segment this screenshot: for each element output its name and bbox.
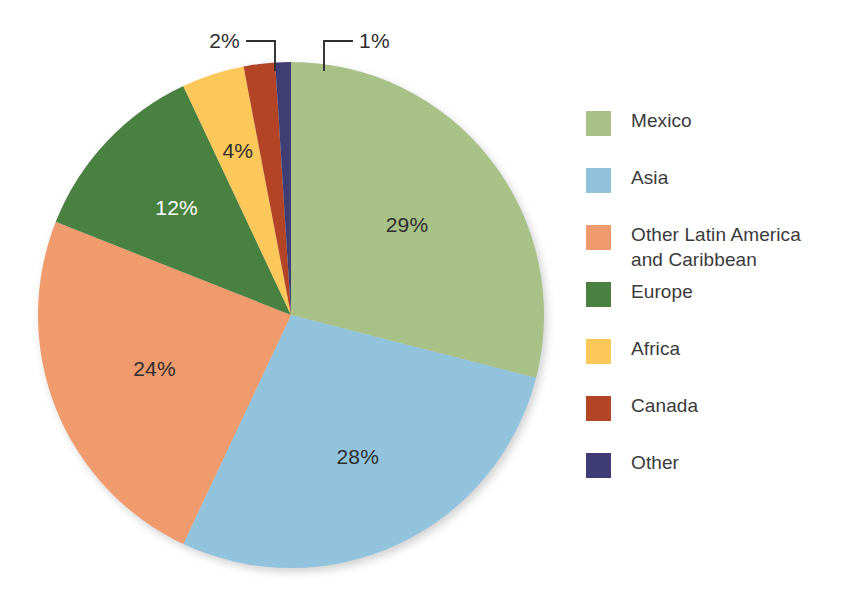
slice-callout-label-other: 1% <box>359 29 390 52</box>
legend-item-other-latin-america-and-caribbean[interactable]: Other Latin America and Caribbean <box>586 222 848 279</box>
legend-item-mexico[interactable]: Mexico <box>586 108 848 165</box>
pie-chart-figure: 29%28%24%12%4% 2% 1% Mexico Asia Other L… <box>0 0 859 590</box>
slice-label-asia: 28% <box>336 445 379 468</box>
legend-label-other-latin-america-and-caribbean: Other Latin America and Caribbean <box>631 222 801 272</box>
legend-label-canada: Canada <box>631 393 698 418</box>
slice-label-other-latin-america-and-caribbean: 24% <box>133 357 176 380</box>
slice-callout-label-canada: 2% <box>209 29 240 52</box>
legend-label-asia: Asia <box>631 165 668 190</box>
legend-item-europe[interactable]: Europe <box>586 279 848 336</box>
legend-swatch-europe <box>586 282 611 307</box>
legend-item-other[interactable]: Other <box>586 450 848 507</box>
chart-legend: Mexico Asia Other Latin America and Cari… <box>586 108 848 507</box>
legend-swatch-africa <box>586 339 611 364</box>
legend-label-other: Other <box>631 450 679 475</box>
legend-item-canada[interactable]: Canada <box>586 393 848 450</box>
legend-swatch-mexico <box>586 111 611 136</box>
slice-label-africa: 4% <box>222 139 253 162</box>
legend-label-europe: Europe <box>631 279 693 304</box>
legend-item-asia[interactable]: Asia <box>586 165 848 222</box>
legend-label-mexico: Mexico <box>631 108 692 133</box>
slice-label-europe: 12% <box>155 196 198 219</box>
legend-item-africa[interactable]: Africa <box>586 336 848 393</box>
legend-swatch-other-latin-america-and-caribbean <box>586 225 611 250</box>
slice-label-mexico: 29% <box>386 213 429 236</box>
legend-swatch-other <box>586 453 611 478</box>
legend-swatch-canada <box>586 396 611 421</box>
legend-label-africa: Africa <box>631 336 680 361</box>
legend-swatch-asia <box>586 168 611 193</box>
pie-slices-group <box>38 62 544 568</box>
